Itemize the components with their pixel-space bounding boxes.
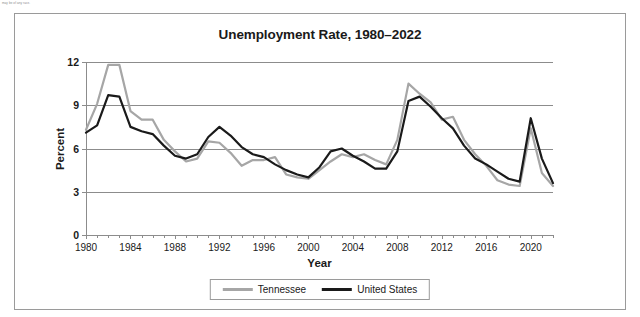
x-axis-tick-mark-minor bbox=[297, 235, 298, 238]
x-axis-tick-mark-major bbox=[86, 235, 87, 239]
x-axis-tick-label: 2008 bbox=[386, 242, 408, 253]
x-axis-tick-mark-minor bbox=[320, 235, 321, 238]
x-axis-tick-mark-minor bbox=[186, 235, 187, 238]
series-lines bbox=[86, 62, 553, 235]
legend-swatch-icon bbox=[223, 288, 253, 291]
x-axis-tick-mark-minor bbox=[497, 235, 498, 238]
x-axis-tick-mark-minor bbox=[331, 235, 332, 238]
legend-entry: Tennessee bbox=[223, 284, 306, 295]
legend-entry: United States bbox=[322, 284, 417, 295]
x-axis-tick-mark-minor bbox=[509, 235, 510, 238]
x-axis-tick-mark-major bbox=[486, 235, 487, 239]
x-axis-tick-mark-minor bbox=[520, 235, 521, 238]
x-axis-tick-mark-minor bbox=[453, 235, 454, 238]
x-axis-tick-mark-minor bbox=[208, 235, 209, 238]
x-axis-tick-mark-minor bbox=[231, 235, 232, 238]
legend-swatch-icon bbox=[322, 288, 352, 291]
chart-title: Unemployment Rate, 1980–2022 bbox=[15, 27, 625, 42]
x-axis-tick-label: 1980 bbox=[75, 242, 97, 253]
x-axis-tick-mark-minor bbox=[386, 235, 387, 238]
x-axis-tick-mark-minor bbox=[420, 235, 421, 238]
x-axis-tick-mark-minor bbox=[142, 235, 143, 238]
x-axis-tick-mark-major bbox=[397, 235, 398, 239]
y-axis-title-label: Percent bbox=[54, 127, 66, 169]
x-axis-tick-label: 1996 bbox=[253, 242, 275, 253]
plot-area: 036912 198019841988199219962000200420082… bbox=[86, 62, 553, 235]
x-axis-tick-mark-major bbox=[130, 235, 131, 239]
x-axis-tick-mark-minor bbox=[542, 235, 543, 238]
x-axis-tick-mark-minor bbox=[164, 235, 165, 238]
x-axis-tick-mark-minor bbox=[119, 235, 120, 238]
x-axis-tick-label: 2000 bbox=[297, 242, 319, 253]
y-axis-tick-label: 0 bbox=[73, 229, 79, 241]
x-axis-tick-mark-minor bbox=[408, 235, 409, 238]
x-axis-tick-mark-major bbox=[264, 235, 265, 239]
legend-label: Tennessee bbox=[258, 284, 306, 295]
x-axis-tick-mark-minor bbox=[475, 235, 476, 238]
y-axis-tick-label: 3 bbox=[73, 186, 79, 198]
x-axis-tick-mark-minor bbox=[364, 235, 365, 238]
x-axis-tick-label: 2004 bbox=[342, 242, 364, 253]
x-axis-tick-mark-major bbox=[308, 235, 309, 239]
x-axis-tick-mark-minor bbox=[286, 235, 287, 238]
x-axis-tick-mark-minor bbox=[375, 235, 376, 238]
x-axis-tick-mark-major bbox=[353, 235, 354, 239]
x-axis-tick-mark-minor bbox=[342, 235, 343, 238]
page-top-note: may be of any race. bbox=[2, 1, 30, 5]
x-axis-tick-mark-minor bbox=[153, 235, 154, 238]
x-axis-tick-label: 2012 bbox=[431, 242, 453, 253]
x-axis-tick-mark-major bbox=[531, 235, 532, 239]
x-axis-tick-mark-minor bbox=[108, 235, 109, 238]
x-axis-tick-label: 1992 bbox=[208, 242, 230, 253]
x-axis-tick-mark-minor bbox=[97, 235, 98, 238]
x-axis-tick-mark-minor bbox=[253, 235, 254, 238]
x-axis-tick-mark-minor bbox=[553, 235, 554, 238]
y-axis-tick-label: 12 bbox=[67, 56, 79, 68]
x-axis-tick-mark-minor bbox=[464, 235, 465, 238]
x-axis-tick-mark-minor bbox=[275, 235, 276, 238]
legend-label: United States bbox=[357, 284, 417, 295]
y-axis-tick-label: 9 bbox=[73, 99, 79, 111]
x-axis-title: Year bbox=[86, 257, 553, 269]
x-axis-tick-label: 1984 bbox=[119, 242, 141, 253]
y-axis-tick-label: 6 bbox=[73, 143, 79, 155]
x-axis-tick-mark-major bbox=[175, 235, 176, 239]
x-axis-tick-label: 2016 bbox=[475, 242, 497, 253]
x-axis-tick-mark-minor bbox=[197, 235, 198, 238]
x-axis-tick-mark-major bbox=[219, 235, 220, 239]
x-axis-tick-mark-minor bbox=[242, 235, 243, 238]
chart-container: Unemployment Rate, 1980–2022 Percent 036… bbox=[14, 13, 626, 310]
x-axis-tick-mark-major bbox=[442, 235, 443, 239]
x-axis-tick-label: 2020 bbox=[520, 242, 542, 253]
x-axis-tick-label: 1988 bbox=[164, 242, 186, 253]
x-axis-tick-mark-minor bbox=[431, 235, 432, 238]
chart-legend: TennesseeUnited States bbox=[210, 279, 430, 300]
